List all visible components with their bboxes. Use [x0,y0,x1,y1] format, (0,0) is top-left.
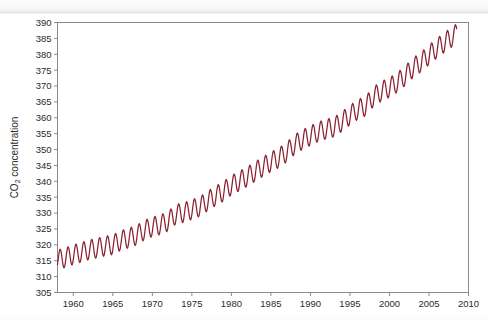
x-tick-label: 2005 [418,298,439,309]
y-tick-label: 325 [36,223,52,234]
y-tick-label: 385 [36,33,52,44]
chart-svg: 3053103153203253303353403453503553603653… [0,0,488,320]
y-tick-label: 345 [36,160,52,171]
y-axis-title-text: CO2 concentration [9,117,21,199]
x-tick-label: 1960 [63,298,84,309]
co2-concentration-line-chart: 3053103153203253303353403453503553603653… [0,0,488,320]
x-tick-label: 2000 [379,298,400,309]
x-tick-label: 1990 [300,298,321,309]
x-tick-label: 2010 [458,298,479,309]
x-tick-label: 1970 [142,298,163,309]
y-tick-label: 355 [36,128,52,139]
y-tick-label: 360 [36,112,52,123]
x-tick-label: 1980 [221,298,242,309]
y-tick-label: 315 [36,255,52,266]
x-tick-label: 1985 [260,298,281,309]
y-axis-tick-labels: 3053103153203253303353403453503553603653… [36,17,52,298]
y-tick-label: 330 [36,207,52,218]
x-tick-label: 1965 [102,298,123,309]
y-tick-label: 370 [36,80,52,91]
y-tick-label: 340 [36,176,52,187]
y-tick-label: 365 [36,96,52,107]
y-tick-label: 380 [36,49,52,60]
x-tick-label: 1975 [181,298,202,309]
x-tick-label: 1995 [339,298,360,309]
y-tick-label: 310 [36,271,52,282]
y-tick-label: 335 [36,192,52,203]
y-tick-label: 320 [36,239,52,250]
y-axis-title: CO2 concentration [9,117,21,199]
y-tick-label: 390 [36,17,52,28]
x-axis-ticks [73,293,468,297]
plot-frame [58,23,469,293]
x-axis-tick-labels: 1960196519701975198019851990199520002005… [63,298,479,309]
y-axis-ticks [54,23,58,293]
y-tick-label: 305 [36,287,52,298]
y-tick-label: 350 [36,144,52,155]
y-tick-label: 375 [36,65,52,76]
